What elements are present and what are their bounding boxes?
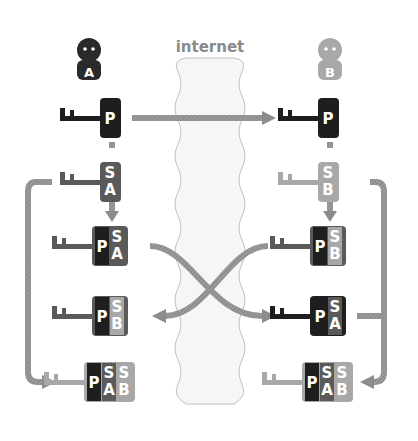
svg-text:S: S [323,164,334,182]
svg-text:B: B [329,245,340,263]
key-left-row-4: PSB [52,296,128,336]
svg-text:P: P [323,110,334,128]
svg-text:B: B [336,381,347,399]
svg-text:P: P [315,238,326,256]
svg-text:A: A [84,65,94,80]
arrowhead-icon [360,375,374,389]
svg-text:B: B [322,181,333,199]
svg-text:S: S [337,364,348,382]
svg-text:S: S [330,298,341,316]
svg-text:A: A [104,181,116,199]
arrowhead-icon [262,111,276,125]
arrow-sb-to-final-b [370,182,384,382]
svg-text:S: S [330,228,341,246]
arrowhead-icon [152,309,166,323]
key-left-row-3: PSA [52,226,128,266]
svg-text:B: B [118,381,129,399]
svg-text:A: A [111,245,123,263]
svg-text:B: B [111,315,122,333]
svg-text:P: P [97,238,108,256]
svg-text:S: S [105,164,116,182]
key-left-row-2: SA [60,162,121,202]
svg-text:S: S [104,364,115,382]
svg-text:P: P [105,110,116,128]
key-right-row-1: P [278,98,339,138]
arrowhead-icon [323,211,337,222]
key-right-row-2: SB [278,162,339,202]
key-left-row-5: PSASB [44,362,135,402]
arrow-sa-to-final-a [28,182,52,382]
svg-text:S: S [112,298,123,316]
internet-cloud [175,58,245,404]
svg-text:P: P [97,308,108,326]
svg-text:P: P [89,374,100,392]
svg-text:A: A [321,381,333,399]
svg-text:S: S [322,364,333,382]
key-left-row-1: P [60,98,121,138]
key-right-row-4: PSA [270,296,346,336]
svg-text:P: P [315,308,326,326]
key-right-row-5: PSASB [262,362,353,402]
person-a-icon: A [77,38,101,80]
svg-text:A: A [103,381,115,399]
key-exchange-diagram: internet A B [0,0,418,441]
svg-text:P: P [307,374,318,392]
person-b-icon: B [318,38,342,80]
svg-text:S: S [112,228,123,246]
svg-text:A: A [329,315,341,333]
svg-text:B: B [325,65,335,80]
svg-text:S: S [119,364,130,382]
key-right-row-3: PSB [270,226,346,266]
arrowhead-icon [105,211,119,222]
internet-label: internet [176,38,245,56]
